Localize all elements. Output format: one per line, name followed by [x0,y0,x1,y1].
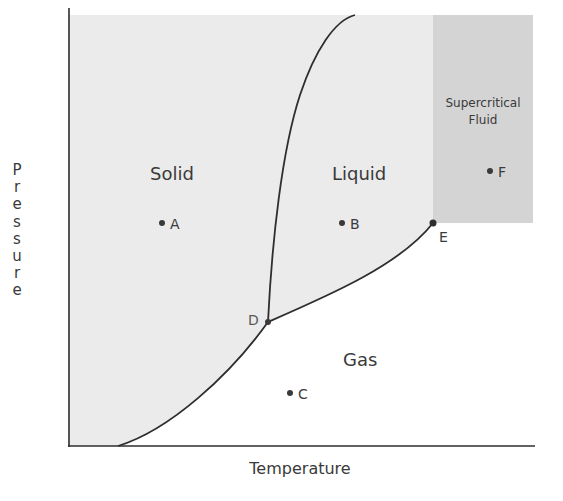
point-a-marker [159,220,165,226]
y-axis-letter: u [8,248,26,265]
y-axis-letter: e [8,282,26,299]
point-e-marker [430,220,437,227]
y-axis-letter: r [8,265,26,282]
y-axis-letter: e [8,196,26,213]
phase-diagram: A B C D E F Solid Liquid Gas Supercritic… [0,0,563,501]
region-solid-label: Solid [150,163,194,184]
point-e-label: E [439,229,448,245]
region-supercritical-label-line1: Supercritical [445,96,520,110]
point-b-label: B [350,216,360,232]
point-f-marker [487,168,493,174]
y-axis-letter: s [8,231,26,248]
point-c-label: C [298,386,308,402]
region-supercritical-label-line2: Fluid [469,113,498,127]
point-d-marker [265,319,271,325]
y-axis-letter: s [8,214,26,231]
x-axis-label: Temperature [248,459,350,478]
region-liquid-label: Liquid [332,163,386,184]
region-gas-label: Gas [343,349,377,370]
point-f-label: F [498,164,506,180]
point-c-marker [287,390,293,396]
y-axis-letter: P [8,162,26,179]
y-axis-label: P r e s s u r e [8,162,26,300]
point-a-label: A [170,216,180,232]
point-b-marker [339,220,345,226]
point-d-label: D [248,312,259,328]
y-axis-letter: r [8,179,26,196]
